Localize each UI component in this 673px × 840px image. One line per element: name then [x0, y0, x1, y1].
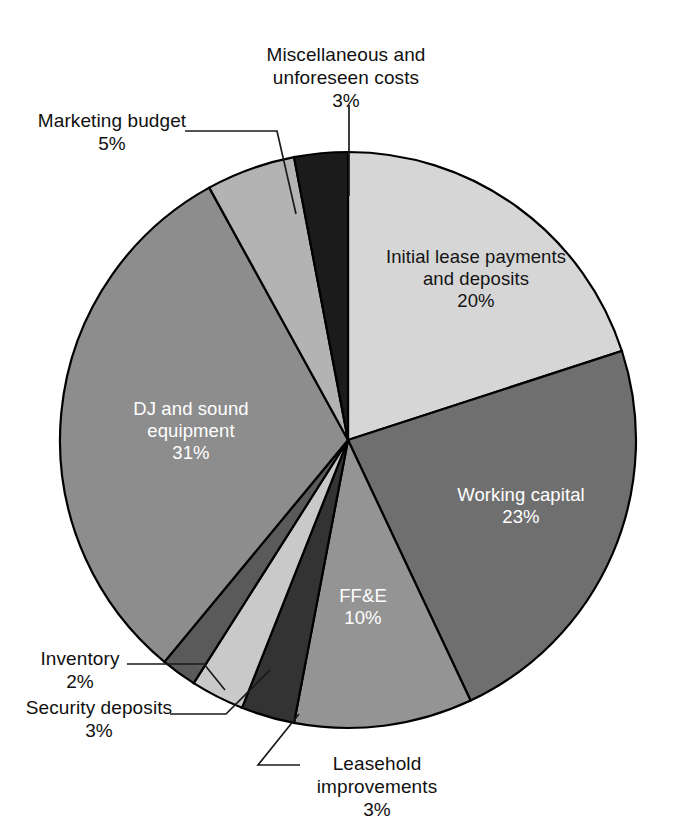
slice-label-initial-lease-payments: Initial lease payments and deposits 20% [371, 246, 581, 313]
slice-label-miscellaneous-and-unforeseen-costs: Miscellaneous and unforeseen costs 3% [240, 44, 452, 112]
slice-label-dj-and-sound-equipment: DJ and sound equipment 31% [108, 398, 274, 465]
slice-label-security-deposits: Security deposits 3% [4, 697, 194, 743]
pie-chart-figure: Initial lease payments and deposits 20% … [0, 0, 673, 840]
slice-label-inventory: Inventory 2% [16, 648, 144, 694]
slice-label-ffe: FF&E 10% [307, 585, 419, 629]
slice-label-leasehold-improvements: Leasehold improvements 3% [302, 753, 452, 821]
slice-label-marketing-budget: Marketing budget 5% [22, 110, 202, 156]
leader-line-leasehold [258, 714, 300, 765]
slice-label-working-capital: Working capital 23% [432, 484, 610, 528]
